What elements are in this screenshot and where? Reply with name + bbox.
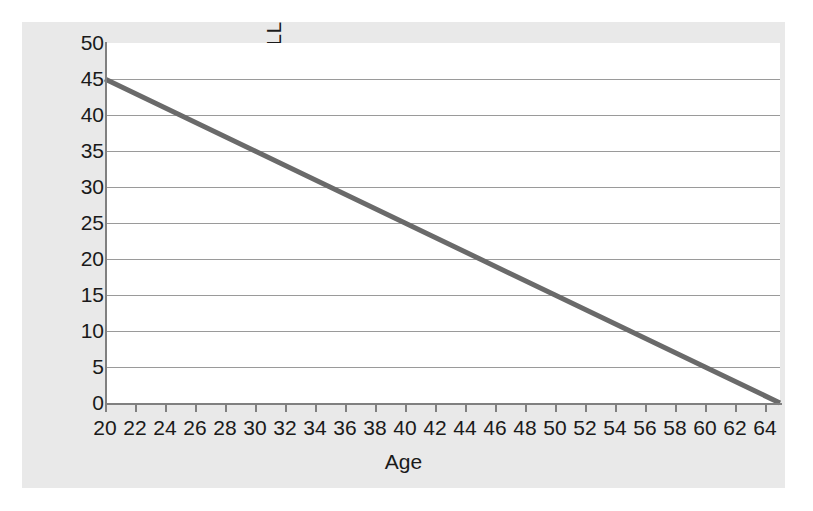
x-axis-tick-mark <box>435 404 437 412</box>
x-axis-tick-mark <box>465 404 467 412</box>
x-axis-tick-label: 20 <box>93 416 116 440</box>
x-axis-tick-label: 22 <box>123 416 146 440</box>
series-line-ypll <box>105 43 780 403</box>
x-axis-tick-label: 54 <box>603 416 626 440</box>
x-axis-tick-mark <box>735 404 737 412</box>
x-axis-tick-label: 60 <box>693 416 716 440</box>
plot-area <box>105 43 780 403</box>
y-axis-tick-label: 5 <box>50 355 104 379</box>
x-axis-tick-mark <box>765 404 767 412</box>
chart-figure: YPLL 05101520253035404550 20222426283032… <box>22 22 785 488</box>
x-axis-tick-label: 50 <box>543 416 566 440</box>
x-axis-tick-mark <box>135 404 137 412</box>
x-axis-tick-label: 28 <box>213 416 236 440</box>
x-axis-tick-label: 30 <box>243 416 266 440</box>
x-axis-tick-mark <box>495 404 497 412</box>
x-axis-tick-mark <box>705 404 707 412</box>
x-axis-tick-label: 62 <box>723 416 746 440</box>
y-axis-line <box>105 42 107 404</box>
y-axis-tick-label: 45 <box>50 67 104 91</box>
y-axis-tick-label: 40 <box>50 103 104 127</box>
x-axis-tick-label: 48 <box>513 416 536 440</box>
x-axis-tick-mark <box>165 404 167 412</box>
x-axis-tick-mark <box>225 404 227 412</box>
x-axis-title: Age <box>22 450 785 474</box>
y-axis-tick-label: 50 <box>50 31 104 55</box>
x-axis-tick-mark <box>195 404 197 412</box>
x-axis-tick-mark <box>405 404 407 412</box>
x-axis-tick-mark <box>645 404 647 412</box>
x-axis-tick-label: 32 <box>273 416 296 440</box>
x-axis-tick-mark <box>375 404 377 412</box>
x-axis-tick-mark <box>585 404 587 412</box>
x-axis-tick-label: 36 <box>333 416 356 440</box>
x-axis-tick-mark <box>525 404 527 412</box>
x-axis-tick-mark <box>285 404 287 412</box>
y-axis-tick-label: 30 <box>50 175 104 199</box>
y-axis-tick-label: 20 <box>50 247 104 271</box>
x-axis-tick-mark <box>315 404 317 412</box>
x-axis-tick-label: 44 <box>453 416 476 440</box>
x-axis-tick-label: 58 <box>663 416 686 440</box>
y-axis-tick-label: 35 <box>50 139 104 163</box>
x-axis-tick-mark <box>255 404 257 412</box>
x-axis-tick-mark <box>555 404 557 412</box>
y-axis-tick-label: 15 <box>50 283 104 307</box>
y-axis-tick-labels: 05101520253035404550 <box>50 43 104 403</box>
y-axis-tick-label: 0 <box>50 391 104 415</box>
x-axis-tick-label: 56 <box>633 416 656 440</box>
x-axis-tick-mark <box>345 404 347 412</box>
y-axis-tick-label: 10 <box>50 319 104 343</box>
x-axis-tick-label: 34 <box>303 416 326 440</box>
x-axis-tick-label: 38 <box>363 416 386 440</box>
x-axis-tick-mark <box>615 404 617 412</box>
x-axis-tick-mark <box>105 404 107 412</box>
x-axis-tick-label: 46 <box>483 416 506 440</box>
x-axis-tick-label: 40 <box>393 416 416 440</box>
x-axis-line <box>105 403 782 405</box>
x-axis-tick-label: 64 <box>753 416 776 440</box>
x-axis-tick-label: 52 <box>573 416 596 440</box>
y-axis-tick-label: 25 <box>50 211 104 235</box>
x-axis-tick-label: 42 <box>423 416 446 440</box>
x-axis-tick-mark <box>675 404 677 412</box>
x-axis-tick-label: 26 <box>183 416 206 440</box>
x-axis-tick-label: 24 <box>153 416 176 440</box>
